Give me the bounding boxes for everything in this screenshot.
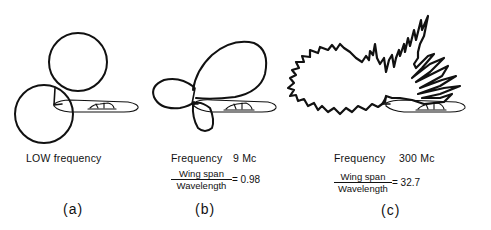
panel-b-caption: (b) [195,201,215,217]
pattern-lobe-main [193,42,266,99]
ratio-denominator: Wavelength [171,180,232,191]
panel-c-ratio-fraction: Wing span Wavelength [334,171,392,194]
panel-b-pattern [153,42,266,131]
aircraft-a [54,100,138,112]
panel-c-ratio-value: = 32.7 [392,177,420,188]
ratio-numerator: Wing span [334,171,392,183]
aircraft-c [386,100,465,112]
panel-c-frequency-label: Frequency [334,152,385,164]
panel-b-ratio-value: = 0.98 [232,174,260,185]
panel-b-frequency-value: 9 Mc [233,152,257,164]
panel-a-caption: (a) [63,201,83,217]
ratio-numerator: Wing span [171,168,232,180]
pattern-jagged-lobes [288,16,460,114]
pattern-lobe-upper [49,33,107,91]
panel-c-frequency-value: 300 Mc [399,152,435,164]
pattern-lobe-left [153,79,194,108]
panel-b-frequency-label: Frequency [171,152,222,164]
pattern-lobe-lower [15,85,73,143]
panel-a-pattern [15,33,107,143]
panel-c-caption: (c) [381,202,400,218]
panel-c-pattern [288,16,460,114]
ratio-denominator: Wavelength [334,183,392,194]
panel-a-frequency-label: LOW frequency [26,152,102,164]
panel-b-ratio-fraction: Wing span Wavelength [171,168,232,191]
radiation-pattern-figure [0,0,491,230]
